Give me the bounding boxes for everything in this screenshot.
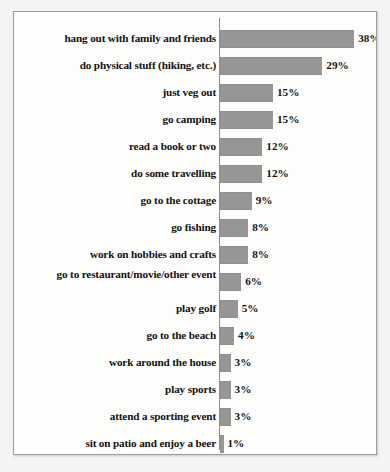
bar <box>220 435 224 453</box>
category-label: hang out with family and friends <box>18 32 216 45</box>
bar-row: attend a sporting event3% <box>14 404 376 430</box>
bar-value-label: 29% <box>326 59 348 72</box>
bar <box>220 192 252 210</box>
bar-value-label: 4% <box>238 329 255 342</box>
bar <box>220 165 262 183</box>
bar <box>220 327 234 345</box>
bar-value-label: 12% <box>266 140 288 153</box>
bar-value-label: 3% <box>235 410 252 423</box>
bar-row: sit on patio and enjoy a beer1% <box>14 431 376 456</box>
category-label: just veg out <box>18 86 216 99</box>
bar <box>220 30 354 48</box>
bar <box>220 381 231 399</box>
category-label: sit on patio and enjoy a beer <box>18 437 216 450</box>
bar <box>220 408 231 426</box>
category-label: do some travelling <box>18 167 216 180</box>
category-label: go fishing <box>18 221 216 234</box>
bar-value-label: 15% <box>277 86 299 99</box>
bar-row: do physical stuff (hiking, etc.)29% <box>14 53 376 79</box>
bar-value-label: 8% <box>252 221 269 234</box>
bar <box>220 84 273 102</box>
bar <box>220 138 262 156</box>
bar-value-label: 9% <box>256 194 273 207</box>
bar-value-label: 15% <box>277 113 299 126</box>
category-label: go to restaurant/movie/other event <box>18 268 216 281</box>
category-label: play golf <box>18 302 216 315</box>
bar-row: read a book or two12% <box>14 134 376 160</box>
bar-row: go camping15% <box>14 107 376 133</box>
bar-row: hang out with family and friends38% <box>14 26 376 52</box>
bar-row: just veg out15% <box>14 80 376 106</box>
bar <box>220 273 241 291</box>
chart-frame: hang out with family and friends38%do ph… <box>13 11 377 455</box>
bar-row: go to restaurant/movie/other event6% <box>14 269 376 295</box>
bar-value-label: 1% <box>228 437 245 450</box>
category-label: read a book or two <box>18 140 216 153</box>
bar-row: work around the house3% <box>14 350 376 376</box>
bar <box>220 57 322 75</box>
category-label: go camping <box>18 113 216 126</box>
bar-row: go fishing8% <box>14 215 376 241</box>
category-label: play sports <box>18 383 216 396</box>
category-label: attend a sporting event <box>18 410 216 423</box>
bar-row: do some travelling12% <box>14 161 376 187</box>
bar <box>220 300 238 318</box>
bar-row: go to the beach4% <box>14 323 376 349</box>
category-label: go to the beach <box>18 329 216 342</box>
bar-value-label: 5% <box>242 302 259 315</box>
plot-area: hang out with family and friends38%do ph… <box>14 12 376 454</box>
category-label: work around the house <box>18 356 216 369</box>
bar-row: play sports3% <box>14 377 376 403</box>
category-label: go to the cottage <box>18 194 216 207</box>
bar-value-label: 6% <box>245 275 262 288</box>
bar-value-label: 3% <box>235 356 252 369</box>
bar-row: play golf5% <box>14 296 376 322</box>
bar-value-label: 8% <box>252 248 269 261</box>
bar <box>220 111 273 129</box>
bar-value-label: 12% <box>266 167 288 180</box>
bar <box>220 219 248 237</box>
bar <box>220 354 231 372</box>
category-label: work on hobbies and crafts <box>18 248 216 261</box>
bar-row: go to the cottage9% <box>14 188 376 214</box>
category-label: do physical stuff (hiking, etc.) <box>18 59 216 72</box>
bar-value-label: 38% <box>358 32 377 45</box>
bar-row: work on hobbies and crafts8% <box>14 242 376 268</box>
bar <box>220 246 248 264</box>
bar-value-label: 3% <box>235 383 252 396</box>
